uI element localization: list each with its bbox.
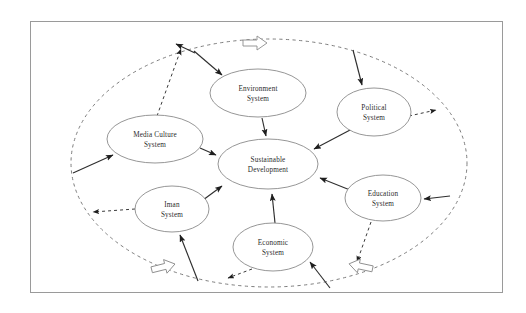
connection-education-to-center — [320, 178, 350, 190]
node-education-system[interactable]: Education System — [345, 175, 421, 221]
connection-boundary-to-media-culture — [73, 155, 113, 173]
connection-media-culture-to-boundary — [157, 49, 181, 116]
node-environment-system[interactable]: Environment System — [210, 69, 306, 117]
block-arrow-bottom-left — [150, 257, 177, 276]
connection-political-to-boundary — [409, 110, 436, 116]
node-political-system[interactable]: Political System — [337, 88, 411, 136]
node-political-system-label-line1: Political — [361, 104, 386, 112]
node-political-system-label-line2: System — [363, 114, 385, 122]
connection-environment-to-boundary — [176, 44, 195, 53]
connection-boundary-to-education — [424, 196, 450, 199]
connection-economic-to-center — [272, 194, 275, 223]
node-environment-system-label-line1: Environment — [238, 85, 277, 93]
node-iman-system-label-line2: System — [161, 211, 183, 219]
diagram-canvas: Environment System Political System Medi… — [0, 0, 526, 313]
node-economic-system-shape[interactable] — [233, 223, 313, 271]
connection-media-culture-to-center — [200, 148, 216, 155]
node-media-culture-system[interactable]: Media Culture System — [107, 115, 203, 163]
node-economic-system-label-line2: System — [262, 249, 284, 257]
node-economic-system-label-line1: Economic — [258, 239, 288, 247]
node-iman-system-shape[interactable] — [135, 186, 209, 232]
diagram-page: Environment System Political System Medi… — [0, 0, 526, 313]
node-education-system-shape[interactable] — [345, 175, 421, 221]
connection-boundary-to-environment — [194, 51, 222, 75]
node-media-culture-system-shape[interactable] — [107, 115, 203, 163]
node-education-system-label-line2: System — [372, 200, 394, 208]
node-sustainable-development-shape[interactable] — [218, 139, 318, 189]
connection-iman-to-boundary-left — [93, 209, 135, 212]
node-sustainable-development-label-line2: Development — [248, 166, 288, 174]
node-economic-system[interactable]: Economic System — [233, 223, 313, 271]
node-political-system-shape[interactable] — [337, 88, 411, 136]
connection-education-to-boundary — [357, 222, 371, 262]
node-education-system-label-line1: Education — [368, 190, 399, 198]
node-media-culture-system-label-line2: System — [144, 141, 166, 149]
connection-boundary-to-political — [353, 50, 362, 85]
connection-political-to-center — [314, 129, 352, 149]
node-media-culture-system-label-line1: Media Culture — [133, 131, 177, 139]
node-environment-system-label-line2: System — [247, 95, 269, 103]
node-sustainable-development-label-line1: Sustainable — [251, 156, 286, 164]
connection-economic-to-boundary — [228, 269, 252, 278]
node-sustainable-development[interactable]: Sustainable Development — [218, 139, 318, 189]
block-arrow-top — [243, 36, 267, 50]
connection-environment-to-center — [262, 118, 266, 136]
node-iman-system[interactable]: Iman System — [135, 186, 209, 232]
node-environment-system-shape[interactable] — [210, 69, 306, 117]
block-arrow-bottom-right — [348, 257, 374, 276]
node-iman-system-label-line1: Iman — [164, 201, 180, 209]
connection-iman-to-center — [203, 186, 222, 200]
